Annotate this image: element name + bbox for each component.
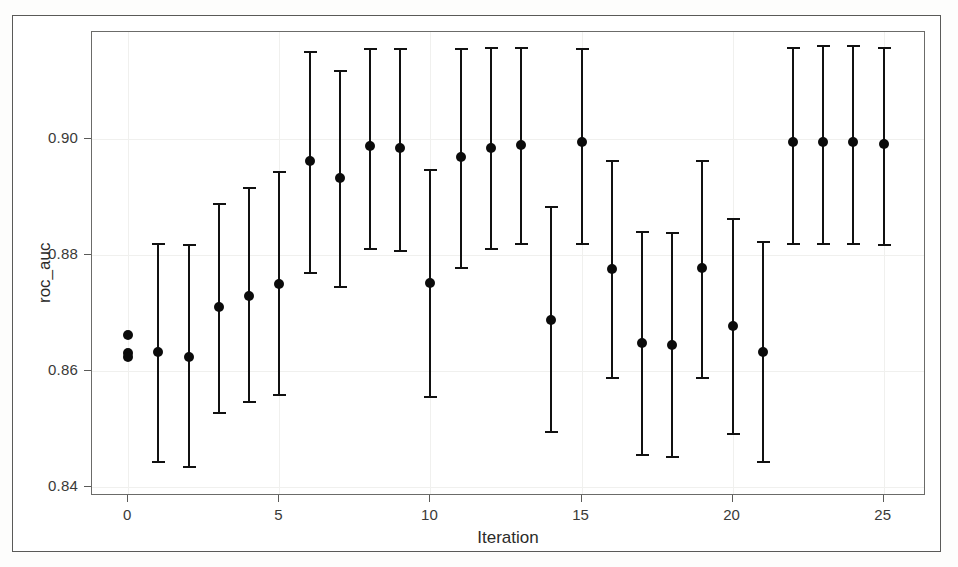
data-point-marker (788, 137, 798, 147)
error-bar-cap-lower (424, 396, 437, 398)
error-bar-cap-lower (817, 243, 830, 245)
data-point-marker (637, 338, 647, 348)
error-bar-cap-upper (424, 169, 437, 171)
data-point-marker (758, 347, 768, 357)
data-point-marker (486, 143, 496, 153)
error-bar-cap-upper (666, 232, 679, 234)
x-tick-mark-3 (581, 495, 582, 502)
error-bar-cap-upper (273, 171, 286, 173)
error-bar-cap-lower (636, 454, 649, 456)
error-bar-cap-lower (273, 394, 286, 396)
error-bar-cap-lower (304, 272, 317, 274)
figure-outer-border: 0.840.860.880.900510152025 Iteration roc… (12, 15, 941, 552)
x-tick-label-5: 25 (853, 506, 913, 523)
x-tick-mark-2 (429, 495, 430, 502)
data-point-marker (728, 321, 738, 331)
y-tick-mark-3 (84, 138, 91, 139)
gridline-horizontal-3 (92, 139, 924, 140)
data-point-marker (214, 302, 224, 312)
error-bar-cap-lower (666, 456, 679, 458)
error-bar-cap-lower (455, 267, 468, 269)
data-point-marker (153, 347, 163, 357)
data-point-marker (577, 137, 587, 147)
error-bar-cap-upper (696, 160, 709, 162)
x-axis-label: Iteration (388, 528, 628, 548)
scanned-page: 0.840.860.880.900510152025 Iteration roc… (0, 0, 958, 567)
gridline-vertical-0 (128, 32, 129, 494)
error-bar-cap-upper (213, 203, 226, 205)
error-bar-cap-upper (152, 243, 165, 245)
error-bar-cap-lower (545, 431, 558, 433)
error-bar-cap-upper (243, 187, 256, 189)
y-axis-label: roc_auc (35, 243, 55, 303)
y-tick-label-1: 0.86 (26, 361, 78, 378)
data-point-marker (516, 140, 526, 150)
data-point-marker (305, 156, 315, 166)
error-bar-cap-upper (364, 48, 377, 50)
y-tick-label-3: 0.90 (26, 129, 78, 146)
error-bar-cap-lower (515, 243, 528, 245)
plot-panel (91, 31, 925, 495)
error-bar-cap-lower (757, 461, 770, 463)
data-point-marker (425, 278, 435, 288)
data-point-marker (335, 173, 345, 183)
error-bar-cap-lower (787, 243, 800, 245)
error-bar-cap-lower (394, 250, 407, 252)
error-bar-cap-upper (394, 48, 407, 50)
error-bar-cap-upper (878, 47, 891, 49)
error-bar-cap-upper (485, 47, 498, 49)
error-bar-cap-lower (334, 286, 347, 288)
error-bar-cap-lower (152, 461, 165, 463)
y-tick-mark-2 (84, 254, 91, 255)
y-tick-mark-1 (84, 370, 91, 371)
chart-figure: 0.840.860.880.900510152025 Iteration roc… (13, 16, 940, 551)
x-tick-mark-4 (732, 495, 733, 502)
x-tick-label-1: 5 (248, 506, 308, 523)
data-point-marker (879, 139, 889, 149)
error-bar-cap-lower (183, 466, 196, 468)
error-bar-cap-lower (485, 248, 498, 250)
error-bar-cap-lower (878, 244, 891, 246)
y-tick-mark-0 (84, 486, 91, 487)
x-tick-label-0: 0 (97, 506, 157, 523)
error-bar-cap-upper (334, 70, 347, 72)
x-tick-mark-5 (883, 495, 884, 502)
data-point-marker (184, 352, 194, 362)
data-point-marker (123, 352, 133, 362)
y-tick-label-0: 0.84 (26, 477, 78, 494)
error-bar-cap-upper (455, 48, 468, 50)
x-tick-mark-0 (127, 495, 128, 502)
error-bar-cap-upper (576, 48, 589, 50)
data-point-marker (456, 152, 466, 162)
error-bar-cap-upper (757, 241, 770, 243)
data-point-marker (365, 141, 375, 151)
error-bar-cap-upper (515, 47, 528, 49)
data-point-marker (395, 143, 405, 153)
error-bar-cap-upper (545, 206, 558, 208)
x-tick-label-4: 20 (702, 506, 762, 523)
error-bar-cap-lower (576, 243, 589, 245)
error-bar-cap-lower (213, 412, 226, 414)
error-bar-cap-upper (847, 45, 860, 47)
data-point-marker (274, 279, 284, 289)
error-bar-cap-upper (727, 218, 740, 220)
x-tick-label-3: 15 (551, 506, 611, 523)
x-tick-mark-1 (278, 495, 279, 502)
data-point-marker (123, 330, 133, 340)
error-bar-cap-lower (696, 377, 709, 379)
error-bar-cap-upper (787, 47, 800, 49)
error-bar-cap-upper (183, 244, 196, 246)
x-tick-label-2: 10 (399, 506, 459, 523)
data-point-marker (848, 137, 858, 147)
data-point-marker (244, 291, 254, 301)
error-bar-cap-lower (847, 243, 860, 245)
data-point-marker (667, 340, 677, 350)
gridline-horizontal-2 (92, 255, 924, 256)
data-point-marker (697, 263, 707, 273)
gridline-horizontal-1 (92, 371, 924, 372)
error-bar-cap-lower (243, 401, 256, 403)
error-bar-cap-upper (606, 160, 619, 162)
data-point-marker (818, 137, 828, 147)
error-bar-cap-upper (304, 51, 317, 53)
gridline-horizontal-0 (92, 487, 924, 488)
